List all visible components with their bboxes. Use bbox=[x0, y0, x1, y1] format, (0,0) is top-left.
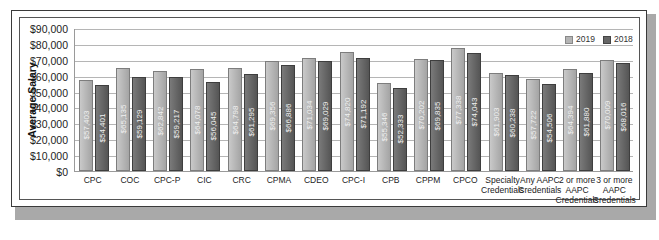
gridline bbox=[75, 61, 633, 62]
bar-value-label: $57,403 bbox=[81, 111, 90, 140]
bar-value-label: $69,356 bbox=[267, 101, 276, 130]
bar-2019: $57,722 bbox=[526, 79, 540, 171]
bar-2019: $57,403 bbox=[79, 80, 93, 171]
y-tick-label: $90,000 bbox=[8, 23, 68, 35]
bar-2018: $59,129 bbox=[132, 77, 146, 171]
bar-value-label: $56,045 bbox=[209, 112, 218, 141]
bar-2018: $60,238 bbox=[505, 75, 519, 171]
bar-2018: $59,217 bbox=[169, 77, 183, 171]
bar-2018: $54,401 bbox=[95, 85, 109, 171]
bar-2018: $52,333 bbox=[393, 88, 407, 171]
y-tick-label: $40,000 bbox=[8, 102, 68, 114]
bar-value-label: $59,217 bbox=[172, 109, 181, 138]
bar-value-label: $64,798 bbox=[230, 105, 239, 134]
legend-swatch-2019 bbox=[565, 36, 573, 44]
y-tick-label: $50,000 bbox=[8, 87, 68, 99]
y-tick-label: $80,000 bbox=[8, 39, 68, 51]
y-tick-label: $10,000 bbox=[8, 150, 68, 162]
bar-2019: $65,135 bbox=[116, 68, 130, 171]
bar-value-label: $68,016 bbox=[619, 103, 628, 132]
bar-2019: $69,356 bbox=[265, 61, 279, 171]
bar-value-label: $69,029 bbox=[321, 102, 330, 131]
bar-2019: $74,820 bbox=[340, 52, 354, 171]
bar-value-label: $55,346 bbox=[379, 113, 388, 142]
bar-value-label: $77,338 bbox=[454, 95, 463, 124]
bar-value-label: $60,238 bbox=[507, 109, 516, 138]
gridline bbox=[75, 45, 633, 46]
bar-2018: $69,835 bbox=[430, 60, 444, 171]
bar-value-label: $61,903 bbox=[491, 107, 500, 136]
y-tick-label: $70,000 bbox=[8, 55, 68, 67]
bar-value-label: $65,135 bbox=[118, 105, 127, 134]
bar-value-label: $61,295 bbox=[246, 108, 255, 137]
bar-2019: $55,346 bbox=[377, 83, 391, 171]
bar-2019: $61,903 bbox=[489, 73, 503, 171]
bar-value-label: $70,202 bbox=[417, 101, 426, 130]
bar-2018: $61,295 bbox=[244, 74, 258, 171]
bar-value-label: $71,034 bbox=[305, 100, 314, 129]
bar-value-label: $54,401 bbox=[97, 113, 106, 142]
y-tick-label: $60,000 bbox=[8, 71, 68, 83]
bar-2018: $74,043 bbox=[467, 53, 481, 171]
bar-value-label: $64,394 bbox=[566, 105, 575, 134]
bar-2019: $62,842 bbox=[153, 71, 167, 171]
legend: 2019 2018 bbox=[565, 34, 633, 44]
bar-value-label: $54,506 bbox=[544, 113, 553, 142]
bar-value-label: $59,129 bbox=[134, 110, 143, 139]
bar-2018: $71,192 bbox=[356, 58, 370, 171]
legend-item-2018: 2018 bbox=[603, 34, 633, 44]
bar-2019: $64,394 bbox=[563, 69, 577, 171]
bar-value-label: $57,722 bbox=[528, 111, 537, 140]
bar-value-label: $74,043 bbox=[470, 98, 479, 127]
bar-value-label: $52,333 bbox=[395, 115, 404, 144]
bar-2019: $70,009 bbox=[600, 60, 614, 171]
bar-2019: $70,202 bbox=[414, 59, 428, 171]
y-tick-label: $20,000 bbox=[8, 134, 68, 146]
bar-value-label: $62,842 bbox=[156, 107, 165, 136]
bar-value-label: $64,078 bbox=[193, 106, 202, 135]
plot-area: $57,403$54,401$65,135$59,129$62,842$59,2… bbox=[74, 29, 633, 172]
x-tick-label: 3 or moreAAPCCredentials bbox=[586, 175, 642, 205]
bar-2019: $77,338 bbox=[451, 48, 465, 171]
bar-value-label: $74,820 bbox=[342, 97, 351, 126]
bar-value-label: $70,009 bbox=[603, 101, 612, 130]
y-tick-label: $30,000 bbox=[8, 118, 68, 130]
bar-value-label: $71,192 bbox=[358, 100, 367, 129]
gridline bbox=[75, 29, 633, 30]
bar-2018: $54,506 bbox=[542, 84, 556, 171]
bar-2018: $56,045 bbox=[206, 82, 220, 171]
bar-2019: $64,798 bbox=[228, 68, 242, 171]
bar-2018: $68,016 bbox=[616, 63, 630, 171]
bar-2018: $66,886 bbox=[281, 65, 295, 171]
bar-value-label: $66,886 bbox=[283, 103, 292, 132]
bar-2018: $61,880 bbox=[579, 73, 593, 171]
legend-item-2019: 2019 bbox=[565, 34, 595, 44]
y-tick-label: $0 bbox=[8, 166, 68, 178]
bar-value-label: $61,880 bbox=[582, 107, 591, 136]
bar-2018: $69,029 bbox=[318, 61, 332, 171]
bar-value-label: $69,835 bbox=[433, 101, 442, 130]
bar-2019: $64,078 bbox=[190, 69, 204, 171]
legend-swatch-2018 bbox=[603, 36, 611, 44]
bar-2019: $71,034 bbox=[302, 58, 316, 171]
